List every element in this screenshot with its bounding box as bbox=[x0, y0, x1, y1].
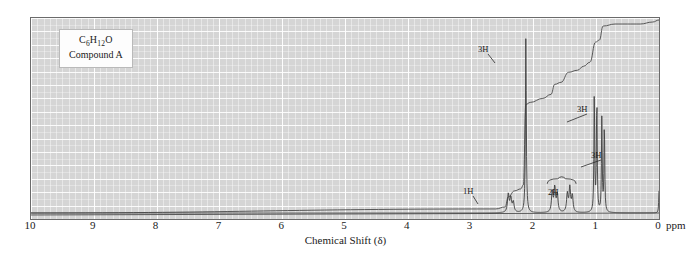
peak-label-2h-4: 2H bbox=[548, 187, 558, 197]
compound-label-box: C6H12O Compound A bbox=[59, 29, 133, 68]
axis-tick-0: 0 bbox=[655, 219, 661, 231]
leader-line-3 bbox=[473, 196, 478, 204]
axis-tick-1: 1 bbox=[592, 219, 598, 231]
axis-unit-label: ppm bbox=[666, 219, 686, 231]
integration-brace-2h bbox=[547, 177, 576, 184]
axis-tick-6: 6 bbox=[278, 219, 284, 231]
leader-line-0 bbox=[488, 54, 495, 63]
axis-tick-10: 10 bbox=[25, 219, 36, 231]
annotation-leader-lines bbox=[473, 54, 601, 204]
x-axis-title: Chemical Shift (δ) bbox=[0, 234, 691, 246]
molecular-formula: C6H12O bbox=[69, 34, 123, 48]
leader-line-1 bbox=[567, 114, 587, 122]
axis-tick-8: 8 bbox=[153, 219, 159, 231]
axis-tick-4: 4 bbox=[404, 219, 410, 231]
peak-label-3h-2: 3H bbox=[591, 150, 601, 160]
axis-tick-2: 2 bbox=[530, 219, 536, 231]
compound-name: Compound A bbox=[69, 49, 123, 62]
nmr-figure: C6H12O Compound A 3H3H3H1H2H 10987654321… bbox=[0, 0, 691, 258]
axis-tick-3: 3 bbox=[467, 219, 473, 231]
peak-label-3h-0: 3H bbox=[478, 44, 488, 54]
x-axis: 109876543210 bbox=[30, 219, 658, 235]
axis-tick-5: 5 bbox=[341, 219, 347, 231]
axis-tick-9: 9 bbox=[90, 219, 96, 231]
leader-line-2 bbox=[581, 160, 601, 167]
peak-label-3h-1: 3H bbox=[577, 104, 587, 114]
axis-tick-7: 7 bbox=[216, 219, 222, 231]
peak-label-1h-3: 1H bbox=[463, 186, 473, 196]
